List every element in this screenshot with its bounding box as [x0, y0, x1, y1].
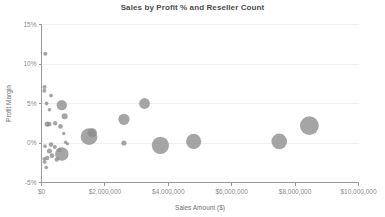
y-tick-label: 0% — [27, 139, 37, 146]
x-tick-label: $8,000,000 — [279, 188, 312, 195]
bubbles-group — [42, 52, 318, 170]
bubble-point[interactable] — [53, 121, 57, 125]
bubble-point[interactable] — [48, 108, 52, 112]
bubble-point[interactable] — [139, 98, 150, 109]
bubble-point[interactable] — [62, 132, 65, 135]
bubble-point[interactable] — [44, 166, 48, 170]
chart-plot-area: 15%10%5%0%-5%$0$2,000,000$4,000,000$6,00… — [0, 0, 385, 217]
tick-labels-group: 15%10%5%0%-5%$0$2,000,000$4,000,000$6,00… — [23, 21, 376, 195]
x-axis-title: Sales Amount ($) — [175, 204, 225, 212]
bubble-point[interactable] — [47, 122, 52, 127]
bubble-point[interactable] — [271, 134, 287, 150]
bubble-point[interactable] — [43, 144, 47, 148]
x-tick-label: $10,000,000 — [340, 188, 377, 195]
gridlines-group — [42, 25, 359, 183]
bubble-point[interactable] — [152, 137, 169, 154]
bubble-point[interactable] — [42, 89, 46, 93]
bubble-point[interactable] — [121, 140, 126, 145]
y-tick-label: 10% — [23, 60, 36, 67]
bubble-point[interactable] — [62, 113, 68, 119]
bubble-point[interactable] — [55, 157, 59, 161]
bubble-point[interactable] — [47, 148, 52, 153]
bubble-point[interactable] — [49, 94, 53, 98]
bubble-point[interactable] — [58, 124, 63, 129]
bubble-point[interactable] — [186, 134, 201, 149]
y-tick-label: -5% — [25, 179, 37, 186]
bubble-point[interactable] — [66, 142, 69, 145]
x-tick-label: $4,000,000 — [152, 188, 185, 195]
axes-group — [39, 25, 359, 186]
bubble-point[interactable] — [300, 116, 319, 135]
bubble-point[interactable] — [50, 153, 55, 158]
y-tick-label: 15% — [23, 21, 36, 28]
y-axis-title: Profit Margin — [5, 85, 13, 122]
bubble-point[interactable] — [81, 128, 98, 145]
bubble-point[interactable] — [43, 160, 47, 164]
bubble-point[interactable] — [43, 52, 47, 56]
bubble-point[interactable] — [49, 142, 54, 147]
bubble-chart: Sales by Profit % and Reseller Count 15%… — [0, 0, 385, 217]
bubble-point[interactable] — [57, 100, 67, 110]
bubble-point[interactable] — [118, 114, 129, 125]
bubble-point[interactable] — [53, 145, 57, 149]
bubble-point[interactable] — [43, 85, 47, 89]
bubble-point[interactable] — [45, 102, 49, 106]
y-tick-label: 5% — [27, 100, 37, 107]
x-tick-label: $2,000,000 — [89, 188, 122, 195]
x-tick-label: $0 — [38, 188, 46, 195]
x-tick-label: $6,000,000 — [215, 188, 248, 195]
